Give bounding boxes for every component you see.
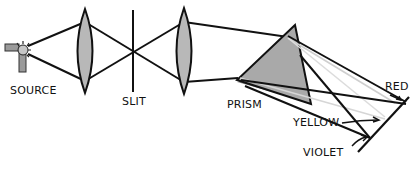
source-label: SOURCE <box>10 84 57 97</box>
lens-1 <box>78 9 93 93</box>
slit-label: SLIT <box>122 95 146 108</box>
violet-label: VIOLET <box>303 146 343 159</box>
prism <box>237 25 311 104</box>
red-label: RED <box>385 80 409 93</box>
prism-label: PRISM <box>227 98 262 111</box>
light-source-icon <box>5 41 31 72</box>
screen <box>358 97 409 152</box>
yellow-label: YELLOW <box>293 116 339 129</box>
spectroscope-diagram <box>0 0 415 171</box>
